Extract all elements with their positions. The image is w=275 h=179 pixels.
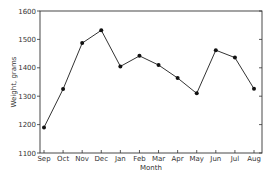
data-point-apr xyxy=(176,76,180,80)
y-tick-label: 1600 xyxy=(18,8,36,16)
x-axis-label: Month xyxy=(140,164,162,172)
x-tick-label: Apr xyxy=(172,155,184,163)
y-tick-label: 1400 xyxy=(18,64,36,72)
data-point-jan xyxy=(118,64,122,68)
x-tick-label: Sep xyxy=(37,155,51,163)
x-tick-label: Nov xyxy=(75,155,89,163)
line-chart: 110012001300140015001600 SepOctNovDecJan… xyxy=(0,0,275,179)
y-axis-label: Weight, grams xyxy=(10,56,18,107)
y-tick-label: 1200 xyxy=(18,121,36,129)
y-tick-label: 1500 xyxy=(18,36,36,44)
data-point-jul xyxy=(233,56,237,60)
data-point-aug xyxy=(252,87,256,91)
data-point-nov xyxy=(80,41,84,45)
data-point-dec xyxy=(99,28,103,32)
data-point-feb xyxy=(137,54,141,58)
series-line-weight xyxy=(44,30,254,127)
y-tick-label: 1100 xyxy=(18,150,36,158)
x-tick-label: Aug xyxy=(247,155,261,163)
y-tick-label: 1300 xyxy=(18,93,36,101)
x-tick-label: Jun xyxy=(209,155,221,163)
data-point-mar xyxy=(157,63,161,67)
x-tick-label: Oct xyxy=(57,155,69,163)
x-tick-label: Dec xyxy=(94,155,108,163)
data-point-sep xyxy=(42,125,46,129)
y-axis: 110012001300140015001600 xyxy=(18,8,262,158)
x-axis: SepOctNovDecJanFebMarAprMayJunJulAug xyxy=(37,150,260,163)
x-tick-label: Mar xyxy=(152,155,165,163)
data-points xyxy=(42,28,256,129)
data-point-jun xyxy=(214,48,218,52)
x-tick-label: May xyxy=(189,155,203,163)
data-point-oct xyxy=(61,87,65,91)
x-tick-label: Feb xyxy=(133,155,146,163)
x-tick-label: Jan xyxy=(114,155,126,163)
plot-frame xyxy=(40,11,262,153)
x-tick-label: Jul xyxy=(230,155,240,163)
data-point-may xyxy=(195,91,199,95)
